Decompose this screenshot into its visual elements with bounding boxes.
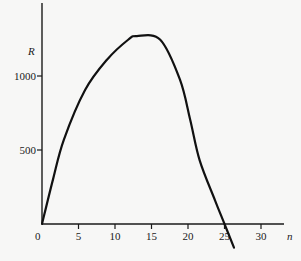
x-tick-label: 15 bbox=[146, 230, 158, 242]
y-axis: 5001000 R bbox=[14, 3, 42, 224]
y-tick-label: 1000 bbox=[14, 70, 37, 82]
y-ticks: 5001000 bbox=[14, 70, 42, 156]
x-tick-label: 30 bbox=[256, 230, 268, 242]
x-tick-label: 10 bbox=[110, 230, 122, 242]
x-ticks: 051015202530 bbox=[35, 224, 267, 242]
x-axis-label: n bbox=[287, 230, 293, 242]
x-tick-label: 5 bbox=[76, 230, 82, 242]
x-tick-label: 0 bbox=[35, 230, 41, 242]
data-curve bbox=[42, 35, 234, 248]
x-axis: 051015202530 n bbox=[35, 224, 293, 242]
y-axis-label: R bbox=[27, 45, 35, 57]
y-tick-label: 500 bbox=[20, 144, 37, 156]
chart: 051015202530 n 5001000 R bbox=[0, 0, 301, 261]
x-tick-label: 20 bbox=[183, 230, 195, 242]
